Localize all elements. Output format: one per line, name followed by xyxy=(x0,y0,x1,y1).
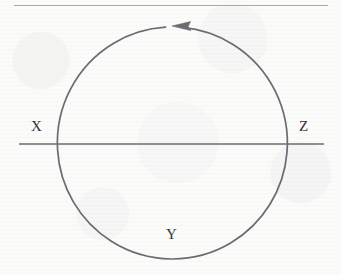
figure-page: X Z Y xyxy=(0,0,342,274)
counterclockwise-arrow-icon xyxy=(172,22,191,31)
label-z: Z xyxy=(299,119,308,134)
label-x: X xyxy=(31,119,42,134)
label-y: Y xyxy=(166,227,177,242)
circular-path xyxy=(57,27,287,259)
